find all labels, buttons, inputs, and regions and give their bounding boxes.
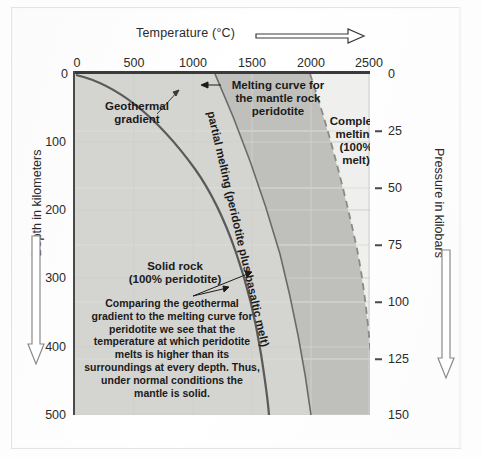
temperature-axis-title: Temperature (°C) bbox=[136, 26, 235, 40]
ytick-pressure-dash-100 bbox=[375, 301, 382, 303]
ytick-depth-0: 0 bbox=[61, 67, 68, 81]
xtick-500: 500 bbox=[124, 56, 145, 70]
ytick-pressure-dash-75 bbox=[375, 244, 382, 246]
ytick-pressure-50: 50 bbox=[388, 181, 402, 195]
ytick-depth-200: 200 bbox=[26, 203, 66, 217]
xtick-1000: 1000 bbox=[179, 56, 207, 70]
label-melting-curve: Melting curve for the mantle rock perido… bbox=[223, 79, 333, 118]
figure-container: Temperature (°C) Depth in kilometers Pre… bbox=[0, 0, 482, 457]
ytick-pressure-75: 75 bbox=[388, 238, 402, 252]
xtick-1500: 1500 bbox=[238, 56, 266, 70]
right-arrow-icon bbox=[256, 28, 366, 44]
scan-edge bbox=[459, 7, 463, 447]
ytick-pressure-125: 125 bbox=[388, 352, 409, 366]
ytick-pressure-dash-50 bbox=[375, 187, 382, 189]
label-complete-melting: Complete melting (100% melt) bbox=[325, 115, 370, 167]
label-geothermal-gradient: Geothermal gradient bbox=[89, 100, 185, 126]
ytick-pressure-25: 25 bbox=[388, 124, 402, 138]
ytick-depth-500: 500 bbox=[26, 408, 66, 422]
down-arrow-icon-pressure bbox=[437, 250, 455, 380]
ytick-depth-100: 100 bbox=[26, 135, 66, 149]
ytick-pressure-100: 100 bbox=[388, 295, 409, 309]
ytick-pressure-150: 150 bbox=[388, 408, 409, 422]
ytick-pressure-dash-25 bbox=[375, 130, 382, 132]
explanatory-note: Comparing the geothermal gradient to the… bbox=[84, 297, 260, 399]
ytick-pressure-0: 0 bbox=[388, 67, 395, 81]
label-solid-rock: Solid rock (100% peridotite) bbox=[110, 260, 240, 286]
xtick-2000: 2000 bbox=[297, 56, 325, 70]
xtick-2500: 2500 bbox=[355, 56, 383, 70]
ytick-depth-400: 400 bbox=[26, 340, 66, 354]
ytick-pressure-dash-125 bbox=[375, 358, 382, 360]
xtick-0: 0 bbox=[74, 56, 81, 70]
ytick-depth-300: 300 bbox=[26, 271, 66, 285]
